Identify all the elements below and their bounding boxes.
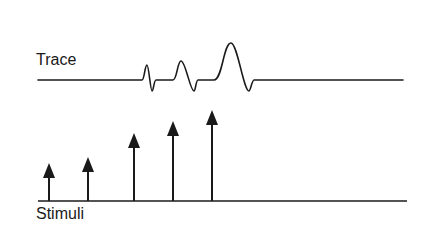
arrowhead-icon	[43, 163, 55, 178]
stimulus-arrow-3	[128, 133, 140, 201]
stimulus-arrow-5	[206, 110, 218, 201]
trace-label: Trace	[36, 52, 76, 68]
arrowhead-icon	[206, 110, 218, 125]
stimulus-arrows	[43, 110, 218, 201]
arrowhead-icon	[167, 121, 179, 136]
stimuli-label: Stimuli	[36, 206, 84, 222]
arrowhead-icon	[82, 157, 94, 172]
stimulus-arrow-1	[43, 163, 55, 201]
trace-waveform	[38, 43, 403, 91]
diagram-canvas: Trace Stimuli	[0, 0, 431, 240]
stimulus-arrow-4	[167, 121, 179, 201]
trace-stimuli-diagram	[0, 0, 431, 240]
arrowhead-icon	[128, 133, 140, 148]
stimulus-arrow-2	[82, 157, 94, 201]
